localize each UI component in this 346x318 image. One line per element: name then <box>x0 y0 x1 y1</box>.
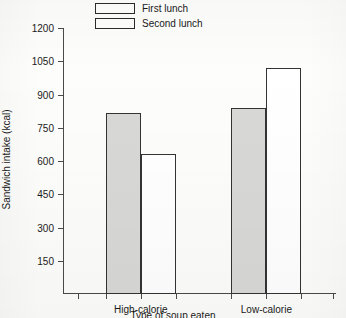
y-axis-title-text: Sandwich intake (kcal) <box>1 109 12 209</box>
y-tick-mark <box>58 95 64 96</box>
x-axis-title-text: Type of soup eaten <box>130 310 215 318</box>
legend-swatch-second-lunch <box>95 18 135 29</box>
x-tick-mark <box>106 294 107 299</box>
y-tick-label: 1050 <box>20 56 54 67</box>
x-tick-mark <box>231 294 232 299</box>
bar-high-calorie-second-lunch <box>141 154 176 294</box>
bar-low-calorie-second-lunch <box>266 68 301 294</box>
x-tick-mark <box>333 294 334 299</box>
y-tick-label: 600 <box>20 156 54 167</box>
y-tick-label: 150 <box>20 255 54 266</box>
x-tick-mark <box>141 294 142 299</box>
legend-item-first-lunch: First lunch <box>95 2 203 15</box>
legend-swatch-first-lunch <box>95 3 135 14</box>
legend-label-first-lunch: First lunch <box>142 3 188 14</box>
y-tick-mark <box>58 228 64 229</box>
y-tick-mark <box>58 61 64 62</box>
y-tick-label: 1200 <box>20 23 54 34</box>
y-tick-label: 300 <box>20 222 54 233</box>
x-tick-mark <box>301 294 302 299</box>
x-tick-mark <box>266 294 267 299</box>
bar-low-calorie-first-lunch <box>231 108 266 294</box>
chart-legend: First lunch Second lunch <box>95 2 203 32</box>
x-axis-title: Type of soup eaten <box>0 310 346 318</box>
y-tick-mark <box>58 194 64 195</box>
legend-label-second-lunch: Second lunch <box>142 18 203 29</box>
y-tick-mark <box>58 128 64 129</box>
plot-area: 15030045060075090010501200 High-calorieL… <box>63 28 336 294</box>
y-tick-mark <box>58 28 64 29</box>
x-tick-mark <box>78 294 79 299</box>
y-tick-label: 450 <box>20 189 54 200</box>
y-axis-title: Sandwich intake (kcal) <box>0 0 14 318</box>
bar-high-calorie-first-lunch <box>106 113 141 294</box>
y-tick-label: 900 <box>20 89 54 100</box>
y-tick-mark <box>58 261 64 262</box>
x-tick-mark <box>176 294 177 299</box>
legend-item-second-lunch: Second lunch <box>95 17 203 30</box>
y-tick-label: 750 <box>20 122 54 133</box>
y-tick-mark <box>58 161 64 162</box>
chart-page: First lunch Second lunch Sandwich intake… <box>0 0 346 318</box>
